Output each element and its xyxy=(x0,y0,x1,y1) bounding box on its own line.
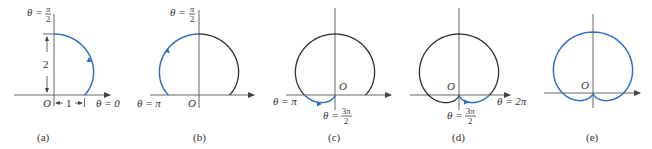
previous-curve xyxy=(199,34,239,95)
fraction-numerator: π xyxy=(46,4,51,14)
fraction-denominator: 2 xyxy=(46,14,50,24)
fraction-numerator: π xyxy=(190,4,195,14)
fraction-denominator: 2 xyxy=(190,14,194,24)
theta-pi-over-2-label: θ = xyxy=(170,6,186,18)
traced-curve xyxy=(459,95,490,103)
caption-d: (d) xyxy=(452,131,465,144)
caption-c: (c) xyxy=(328,131,341,144)
width-label: 1 xyxy=(66,97,72,109)
panel-e: O (e) xyxy=(544,14,640,144)
theta-3pi-over-2-label: θ = xyxy=(447,109,463,121)
caption-e: (e) xyxy=(586,131,599,144)
traced-curve xyxy=(159,34,199,95)
theta-3pi-over-2-label: θ = xyxy=(323,109,339,121)
theta-2pi-label: θ = 2π xyxy=(497,95,527,107)
traced-curve xyxy=(54,34,94,95)
fraction-numerator: 3π xyxy=(466,106,475,116)
height-label: 2 xyxy=(43,58,49,70)
panel-b: θ = π 2 θ = π O (b) xyxy=(137,4,254,144)
fraction-denominator: 2 xyxy=(344,116,348,126)
theta-zero-label: θ = 0 xyxy=(96,97,120,109)
panel-c: O θ = π θ = 3π 2 (c) xyxy=(273,8,391,144)
origin-label: O xyxy=(339,80,347,92)
cardioid-figure: 2 1 O θ = 0 θ = π 2 (a) θ = π 2 θ = π O … xyxy=(0,0,652,149)
theta-pi-over-2-label: θ = xyxy=(27,6,43,18)
fraction-denominator: 2 xyxy=(468,116,472,126)
fraction-numerator: 3π xyxy=(342,106,351,116)
origin-label: O xyxy=(43,97,51,109)
panel-d: O θ = 2π θ = 3π 2 (d) xyxy=(410,8,527,144)
origin-label: O xyxy=(188,97,196,109)
direction-arrow-icon xyxy=(464,100,470,105)
origin-label: O xyxy=(447,80,455,92)
origin-label: O xyxy=(581,79,589,91)
theta-pi-label: θ = π xyxy=(137,97,161,109)
traced-curve xyxy=(305,95,336,103)
theta-pi-label: θ = π xyxy=(273,95,297,107)
caption-a: (a) xyxy=(37,131,50,144)
panel-a: 2 1 O θ = 0 θ = π 2 (a) xyxy=(14,4,120,144)
caption-b: (b) xyxy=(193,131,206,144)
